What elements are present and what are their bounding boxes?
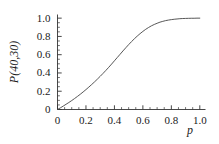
x-axis-title: p <box>176 124 204 136</box>
figure-plot-P40-30: 00.20.40.60.81.000.20.40.60.81.0 P(40,30… <box>0 0 219 144</box>
y-tick-label: 1.0 <box>0 13 51 24</box>
y-axis-title: P(40,30) <box>8 26 20 98</box>
x-tick-label: 0.2 <box>72 115 100 126</box>
data-series-curve <box>58 18 200 109</box>
x-tick-label: 0.6 <box>129 115 157 126</box>
y-tick-label: 0 <box>0 104 51 115</box>
x-tick-label: 0.4 <box>100 115 128 126</box>
x-tick-label: 0 <box>44 115 72 126</box>
